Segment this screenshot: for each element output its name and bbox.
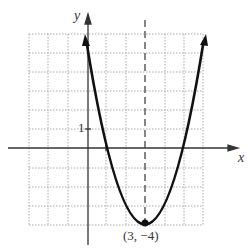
y-tick-label: 1 — [78, 120, 85, 136]
chart-canvas — [0, 0, 247, 252]
y-axis-arrow-icon — [85, 14, 91, 24]
vertex-point — [142, 220, 149, 227]
vertex-label: (3, −4) — [123, 228, 159, 244]
y-axis-label: y — [74, 8, 80, 24]
grid — [29, 34, 203, 225]
curve-arrow-left-icon — [82, 34, 90, 46]
x-axis-arrow-icon — [228, 145, 238, 151]
x-axis-label: x — [238, 150, 244, 166]
curve-arrow-right-icon — [200, 34, 208, 46]
